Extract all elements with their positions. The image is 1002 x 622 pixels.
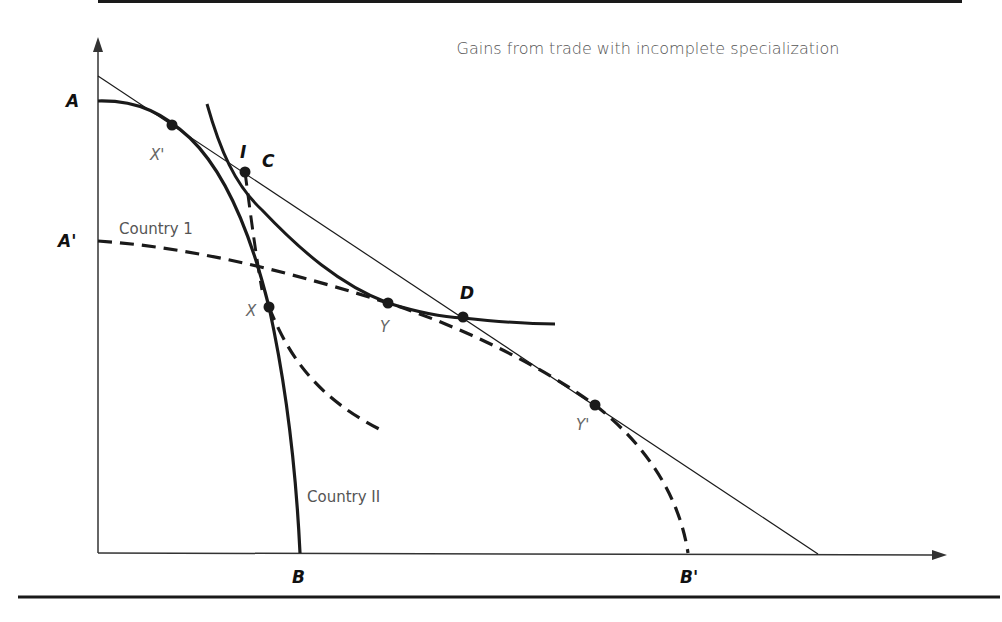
point-x-prime: [167, 120, 178, 131]
indifference-curve: [207, 104, 555, 324]
label-x: X: [245, 302, 257, 320]
point-y: [383, 298, 394, 309]
label-a: A: [64, 91, 79, 111]
point-x: [264, 302, 275, 313]
label-c: C: [262, 151, 275, 171]
point-d: [458, 312, 469, 323]
diagram-title: Gains from trade with incomplete special…: [457, 39, 840, 58]
label-b: B: [292, 567, 305, 587]
label-a-prime: A': [56, 231, 76, 251]
country-1-ppf: [98, 241, 688, 553]
label-b-prime: B': [680, 567, 698, 587]
label-y-prime: Y': [576, 416, 589, 434]
label-country-1: Country 1: [119, 220, 193, 238]
x-axis-arrow-icon: [932, 550, 947, 560]
label-d: D: [460, 283, 474, 303]
trade-diagram: Gains from trade with incomplete special…: [0, 0, 1002, 622]
y-axis-arrow-icon: [93, 37, 103, 52]
x-axis: [98, 553, 932, 555]
dashed-segment-near-c: [245, 172, 262, 290]
label-y: Y: [380, 318, 391, 336]
label-x-prime: X': [149, 146, 164, 164]
point-y-prime: [590, 400, 601, 411]
label-country-2: Country II: [307, 488, 380, 506]
label-i: I: [240, 142, 246, 162]
point-c: [240, 167, 251, 178]
